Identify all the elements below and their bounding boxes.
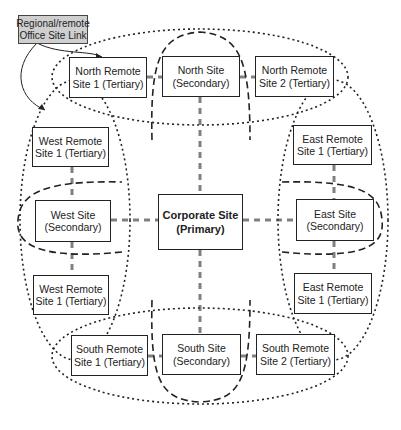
box-line2: Site 1 (Tertiary)	[35, 147, 106, 160]
corporate-site: Corporate Site (Primary)	[158, 194, 243, 250]
box-line2: Site 1 (Tertiary)	[74, 356, 145, 369]
box-line1: East Site	[314, 208, 356, 221]
box-line2: Site 1 (Tertiary)	[297, 145, 368, 158]
south-remote-site-2: South Remote Site 2 (Tertiary)	[256, 334, 335, 375]
box-line2: Site 1 (Tertiary)	[297, 294, 368, 307]
east-remote-site-top: East Remote Site 1 (Tertiary)	[293, 125, 372, 165]
label-line1: Regional/remote	[16, 18, 89, 30]
box-line2: (Secondary)	[306, 220, 363, 233]
box-line1: West Site	[51, 209, 96, 222]
box-line2: Site 2 (Tertiary)	[259, 77, 330, 90]
east-site: East Site (Secondary)	[296, 199, 374, 241]
west-site: West Site (Secondary)	[35, 200, 111, 242]
south-remote-site-1: South Remote Site 1 (Tertiary)	[71, 335, 148, 376]
box-line2: Site 2 (Tertiary)	[260, 355, 331, 368]
label-line2: Office Site Link	[19, 30, 86, 42]
box-line1: North Site	[178, 64, 225, 77]
box-line2: (Secondary)	[44, 221, 101, 234]
box-line1: South Site	[177, 342, 225, 355]
box-line1: North Remote	[262, 64, 327, 77]
box-line1: West Remote	[39, 135, 102, 148]
west-remote-site-bottom: West Remote Site 1 (Tertiary)	[33, 275, 109, 315]
box-line1: South Remote	[76, 343, 143, 356]
box-line2: (Secondary)	[172, 77, 229, 90]
north-site: North Site (Secondary)	[162, 56, 240, 97]
box-line1: North Remote	[75, 65, 140, 78]
box-line2: Site 1 (Tertiary)	[35, 295, 106, 308]
west-remote-site-top: West Remote Site 1 (Tertiary)	[32, 127, 109, 167]
south-site: South Site (Secondary)	[162, 334, 241, 375]
box-line1: East Remote	[303, 281, 364, 294]
box-line1: Corporate Site	[163, 208, 239, 222]
box-line1: South Remote	[262, 342, 329, 355]
box-line1: West Remote	[39, 283, 102, 296]
north-remote-site-2: North Remote Site 2 (Tertiary)	[255, 56, 334, 97]
north-remote-site-1: North Remote Site 1 (Tertiary)	[69, 57, 147, 98]
box-line1: East Remote	[302, 133, 363, 146]
box-line2: (Secondary)	[173, 355, 230, 368]
box-line2: Site 1 (Tertiary)	[72, 78, 143, 91]
box-line2: (Primary)	[176, 222, 224, 236]
east-remote-site-bottom: East Remote Site 1 (Tertiary)	[294, 273, 372, 314]
regional-link-label: Regional/remote Office Site Link	[18, 15, 88, 44]
